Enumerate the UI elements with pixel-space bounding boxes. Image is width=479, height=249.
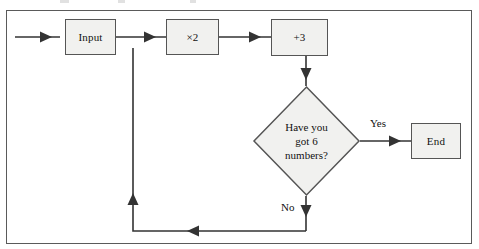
node-plus3[interactable]: +3 bbox=[271, 19, 328, 56]
node-decision[interactable]: Have you got 6 numbers? bbox=[253, 86, 360, 196]
decision-diamond-shape bbox=[253, 86, 360, 196]
top-text-artifact bbox=[60, 0, 69, 3]
top-text-artifact bbox=[190, 0, 196, 3]
node-times2-label: ×2 bbox=[186, 31, 198, 44]
node-input-label: Input bbox=[78, 31, 102, 44]
flowchart-canvas: Input ×2 +3 Have you got 6 numbers? End … bbox=[0, 0, 479, 249]
node-end[interactable]: End bbox=[411, 123, 461, 159]
node-input[interactable]: Input bbox=[65, 19, 116, 55]
node-end-label: End bbox=[427, 135, 445, 148]
edge-label-no: No bbox=[281, 201, 294, 213]
edge-label-yes: Yes bbox=[370, 117, 386, 129]
top-text-artifact bbox=[118, 0, 125, 3]
node-plus3-label: +3 bbox=[293, 31, 305, 44]
node-times2[interactable]: ×2 bbox=[166, 19, 219, 55]
